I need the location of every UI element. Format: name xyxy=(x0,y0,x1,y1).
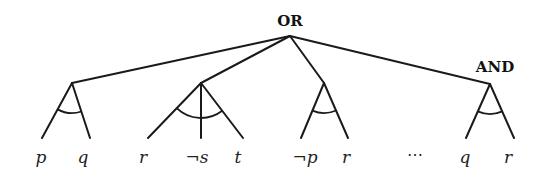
leaf-labels: pqr¬st¬prqr xyxy=(36,147,513,167)
and-to-leaf-edge xyxy=(42,83,72,138)
leaf-literal: ¬p xyxy=(292,147,317,167)
leaf-literal: r xyxy=(139,147,148,167)
and-arc-icon xyxy=(478,111,502,114)
root-to-and-edge xyxy=(201,36,290,83)
leaf-literal: r xyxy=(504,147,513,167)
leaf-literal: q xyxy=(78,147,89,167)
and-arc-icon xyxy=(312,110,336,113)
and-arc-icon xyxy=(177,108,223,118)
and-or-tree-diagram: OR AND pqr¬st¬prqr ⋯ xyxy=(0,0,544,179)
and-to-leaf-edge xyxy=(72,83,90,138)
and-to-leaf-edge xyxy=(466,84,490,138)
or-node-label: OR xyxy=(277,12,303,30)
and-arc-icon xyxy=(58,109,82,113)
ellipsis-more-branches: ⋯ xyxy=(407,145,423,164)
and-node-label: AND xyxy=(475,58,514,76)
leaf-literal: r xyxy=(342,147,351,167)
and-to-leaf-edge xyxy=(148,83,201,138)
leaf-literal: t xyxy=(235,147,242,167)
root-to-and-edge xyxy=(72,36,290,83)
leaf-literal: ¬s xyxy=(186,147,209,167)
leaf-literal: p xyxy=(36,147,47,167)
and-to-leaf-edge xyxy=(490,84,514,138)
leaf-literal: q xyxy=(460,147,471,167)
and-to-leaf-edge xyxy=(324,83,348,138)
tree-edges xyxy=(42,36,514,138)
